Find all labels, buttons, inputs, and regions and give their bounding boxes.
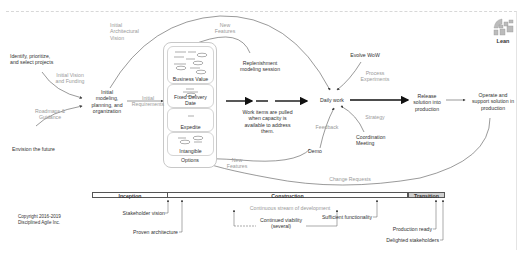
- option-label: Intangible: [168, 148, 213, 154]
- node-identify[interactable]: Identify, prioritize, and select project…: [10, 53, 70, 66]
- node-replenishment[interactable]: Replenishment modeling session: [235, 60, 285, 73]
- milestone-sufficient-functionality: Sufficient functionality: [308, 214, 372, 220]
- edge-label-initial-architectural-vision: Initial Architectural Vision: [110, 22, 150, 41]
- edge-label-roadmaps-guidance: Roadmaps & Guidance: [30, 108, 70, 121]
- milestone-proven-architecture: Proven architecture: [122, 229, 178, 235]
- edge-label-new-features-top: New Features: [210, 22, 240, 35]
- milestone-continued-viability: Continued viability (several): [256, 217, 306, 230]
- node-demo[interactable]: Demo: [300, 148, 330, 154]
- edge-label-feedback: Feedback: [312, 124, 342, 130]
- logo-label: Lean: [490, 38, 516, 44]
- work-items-icon: [168, 133, 213, 147]
- option-label: Business Value: [168, 76, 213, 82]
- milestone-stakeholder-vision: Stakeholder vision: [115, 210, 165, 216]
- phase-transition: Transition: [408, 192, 445, 198]
- node-evolve-wow[interactable]: Evolve WoW: [345, 52, 385, 58]
- option-business-value[interactable]: Business Value: [167, 46, 214, 84]
- options-pool: Business Value Fixed Delivery Date Exped…: [163, 42, 217, 168]
- node-coordination[interactable]: Coordination Meeting: [356, 134, 396, 147]
- work-items-icon: [168, 109, 213, 123]
- node-initial-modeling[interactable]: Initial modeling, planning, and organiza…: [86, 89, 128, 115]
- options-footer: Options: [164, 157, 216, 163]
- option-fixed-delivery-date[interactable]: Fixed Delivery Date: [167, 84, 214, 108]
- option-expedite[interactable]: Expedite: [167, 108, 214, 132]
- work-items-icon: [168, 47, 213, 75]
- edge-label-new-features-bottom: New Features: [222, 157, 252, 170]
- edge-label-change-requests: Change Requests: [325, 176, 375, 182]
- milestone-delighted-stakeholders: Delighted stakeholders: [370, 237, 439, 243]
- node-release[interactable]: Release solution into production: [408, 93, 446, 112]
- edge-label-process-experiments: Process Experiments: [355, 70, 395, 83]
- edge-label-strategy: Strategy: [360, 114, 390, 120]
- node-operate[interactable]: Operate and support solution in producti…: [466, 92, 520, 111]
- node-envision[interactable]: Envision the future: [12, 146, 72, 152]
- milestone-continuous-stream: Continuous stream of development: [240, 205, 340, 211]
- option-label: Expedite: [168, 124, 213, 130]
- edge-label-initial-vision-funding: Initial Vision and Funding: [50, 72, 90, 85]
- phase-construction: Construction: [168, 192, 408, 198]
- milestone-production-ready: Production ready: [380, 226, 432, 232]
- node-work-items: Work items are pulled when capacity is a…: [230, 109, 305, 135]
- node-daily-work[interactable]: Daily work: [312, 97, 352, 103]
- copyright: Copyright 2016-2019 Disciplined Agile In…: [18, 214, 78, 227]
- option-intangible[interactable]: Intangible: [167, 132, 214, 156]
- edge-label-initial-requirements: Initial Requirements: [128, 95, 168, 108]
- option-label: Fixed Delivery Date: [168, 94, 213, 106]
- phase-inception: Inception: [92, 192, 168, 198]
